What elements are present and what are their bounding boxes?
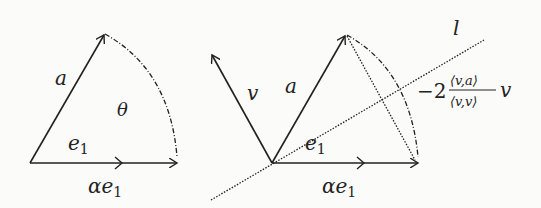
reflection-diagram: a θ e1 αe1 v a e1 αe1 l −2 ⟨v,a⟩ ⟨v,v⟩ v: [0, 0, 541, 208]
line-l: [211, 40, 484, 200]
right-diagram: v a e1 αe1 l −2 ⟨v,a⟩ ⟨v,v⟩ v: [211, 16, 512, 200]
arc-theta: [105, 34, 177, 157]
label-alpha-e1: αe1: [322, 174, 356, 200]
label-v: v: [247, 81, 259, 105]
formula-v: v: [500, 78, 512, 102]
arc-rotation: [347, 35, 418, 157]
formula-coefficient: −2: [417, 79, 446, 103]
left-diagram: a θ e1 αe1: [30, 34, 177, 200]
label-l: l: [453, 16, 459, 40]
reflection-vector: [347, 36, 415, 160]
formula-numerator: ⟨v,a⟩: [450, 73, 478, 88]
label-alpha-e1: αe1: [88, 174, 122, 200]
formula-denominator: ⟨v,v⟩: [450, 94, 477, 109]
label-theta: θ: [117, 99, 128, 120]
vector-a: [30, 35, 104, 163]
vector-v: [212, 55, 272, 163]
label-e1: e1: [68, 131, 89, 157]
label-a: a: [285, 74, 297, 98]
reflection-formula: −2 ⟨v,a⟩ ⟨v,v⟩ v: [417, 73, 512, 109]
label-a: a: [55, 66, 67, 90]
